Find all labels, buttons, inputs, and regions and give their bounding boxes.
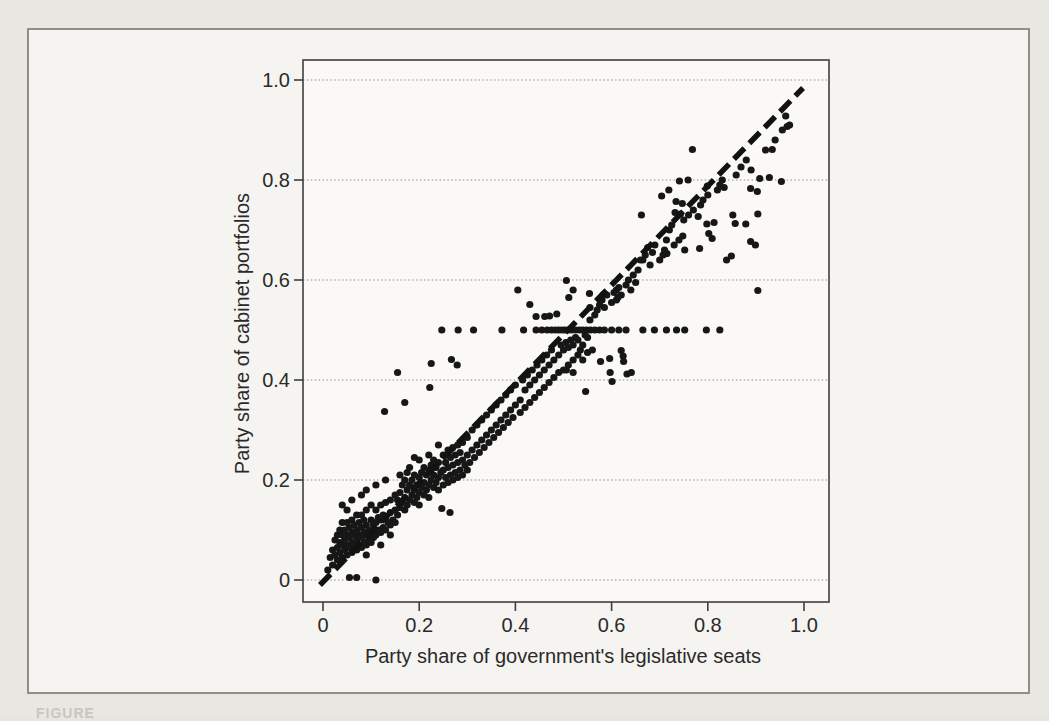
data-point	[517, 396, 524, 403]
data-point	[348, 496, 355, 503]
data-point	[766, 174, 773, 181]
data-point	[719, 176, 726, 183]
data-point	[608, 326, 615, 333]
data-point	[703, 326, 710, 333]
data-point	[448, 356, 455, 363]
data-point	[778, 178, 785, 185]
data-point	[579, 341, 586, 348]
data-point	[769, 146, 776, 153]
data-point	[721, 184, 728, 191]
data-point	[681, 326, 688, 333]
data-point	[435, 441, 442, 448]
data-point	[663, 236, 670, 243]
data-point	[756, 175, 763, 182]
data-point	[446, 509, 453, 516]
data-point	[665, 186, 672, 193]
data-point	[628, 369, 635, 376]
y-tick-label: 0.8	[262, 169, 290, 191]
data-point	[363, 486, 370, 493]
data-point	[426, 384, 433, 391]
data-point	[663, 326, 670, 333]
data-point	[363, 551, 370, 558]
data-point	[394, 511, 401, 518]
data-point	[658, 192, 665, 199]
data-point	[639, 326, 646, 333]
data-point	[377, 541, 384, 548]
data-point	[615, 326, 622, 333]
data-point	[343, 506, 350, 513]
data-point	[438, 326, 445, 333]
data-point	[782, 112, 789, 119]
data-point	[684, 176, 691, 183]
data-point	[754, 287, 761, 294]
data-point	[401, 399, 408, 406]
data-point	[464, 466, 471, 473]
y-tick-label: 0.2	[262, 469, 290, 491]
data-point	[679, 200, 686, 207]
data-point	[747, 166, 754, 173]
x-tick-label: 0	[317, 614, 328, 636]
data-point	[454, 361, 461, 368]
y-axis-title: Party share of cabinet portfolios	[231, 114, 254, 554]
data-point	[425, 494, 432, 501]
data-point	[762, 146, 769, 153]
data-point	[579, 356, 586, 363]
x-tick-label: 0.6	[598, 614, 626, 636]
data-point	[608, 378, 615, 385]
data-point	[601, 326, 608, 333]
data-point	[649, 249, 656, 256]
caption-fragment: FIGURE	[36, 705, 95, 721]
data-point	[387, 531, 394, 538]
data-point	[681, 246, 688, 253]
data-point	[570, 286, 577, 293]
data-point	[498, 326, 505, 333]
data-point	[646, 261, 653, 268]
data-point	[627, 286, 634, 293]
data-point	[394, 369, 401, 376]
data-point	[673, 326, 680, 333]
x-tick-label: 0.8	[694, 614, 722, 636]
data-point	[742, 220, 749, 227]
data-point	[553, 310, 560, 317]
data-point	[703, 220, 710, 227]
x-tick-label: 0.2	[405, 614, 433, 636]
data-point	[679, 232, 686, 239]
data-point	[615, 284, 622, 291]
data-point	[733, 171, 740, 178]
data-point	[695, 213, 702, 220]
data-point	[455, 326, 462, 333]
data-point	[743, 156, 750, 163]
data-point	[514, 286, 521, 293]
data-point	[570, 369, 577, 376]
data-point	[716, 326, 723, 333]
data-point	[584, 334, 591, 341]
data-point	[372, 481, 379, 488]
data-point	[582, 388, 589, 395]
data-point	[772, 136, 779, 143]
data-point	[526, 301, 533, 308]
x-axis-title: Party share of government's legislative …	[313, 645, 813, 668]
data-point	[651, 326, 658, 333]
data-point	[563, 277, 570, 284]
data-point	[546, 312, 553, 319]
data-point	[392, 519, 399, 526]
data-point	[382, 476, 389, 483]
data-point	[509, 414, 516, 421]
data-point	[622, 326, 629, 333]
data-point	[346, 574, 353, 581]
data-point	[710, 219, 717, 226]
data-point	[416, 456, 423, 463]
data-point	[532, 313, 539, 320]
data-point	[663, 250, 670, 257]
data-point	[618, 291, 625, 298]
y-tick-label: 0	[279, 569, 290, 591]
data-point	[709, 235, 716, 242]
data-point	[754, 210, 761, 217]
y-tick-label: 1.0	[262, 69, 290, 91]
data-point	[565, 294, 572, 301]
data-point	[601, 304, 608, 311]
x-tick-label: 0.4	[501, 614, 529, 636]
data-point	[728, 252, 735, 259]
data-point	[438, 505, 445, 512]
